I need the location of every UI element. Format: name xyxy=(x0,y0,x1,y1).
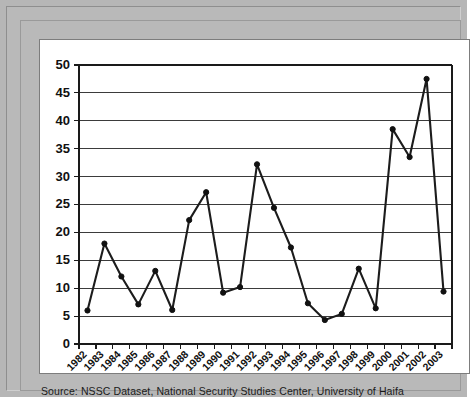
data-point xyxy=(237,284,242,289)
source-caption: Source: NSSC Dataset, National Security … xyxy=(39,378,470,397)
data-point xyxy=(339,311,344,316)
data-series-line xyxy=(87,79,443,320)
data-point xyxy=(288,245,293,250)
y-tick-label: 35 xyxy=(56,141,70,156)
data-point xyxy=(102,241,107,246)
data-point xyxy=(170,307,175,312)
data-point xyxy=(424,76,429,81)
y-tick-label: 0 xyxy=(63,336,70,351)
data-point xyxy=(373,306,378,311)
data-point xyxy=(305,301,310,306)
y-tick-label: 25 xyxy=(56,196,70,211)
data-point xyxy=(322,317,327,322)
y-tick-label: 50 xyxy=(56,57,70,72)
data-point xyxy=(136,302,141,307)
data-point xyxy=(390,127,395,132)
data-point xyxy=(271,205,276,210)
data-point xyxy=(441,289,446,294)
y-tick-label: 20 xyxy=(56,224,70,239)
data-point xyxy=(187,218,192,223)
y-tick-label: 10 xyxy=(56,280,70,295)
data-point xyxy=(407,154,412,159)
y-tick-label: 40 xyxy=(56,113,70,128)
source-caption-text: Source: NSSC Dataset, National Security … xyxy=(39,385,404,397)
y-tick-label: 30 xyxy=(56,169,70,184)
figure-outer-frame: 05101520253035404550 1982198319841985198… xyxy=(6,6,461,391)
data-markers-group xyxy=(85,76,446,322)
data-point xyxy=(356,266,361,271)
line-chart: 05101520253035404550 1982198319841985198… xyxy=(40,40,471,375)
y-tick-label: 45 xyxy=(56,85,70,100)
data-point xyxy=(204,190,209,195)
data-point xyxy=(254,162,259,167)
y-tick-label: 15 xyxy=(56,252,70,267)
data-series-group xyxy=(87,79,443,320)
x-axis-labels-group: 1982198319841985198619871988198919901991… xyxy=(64,348,445,373)
x-tick-label: 2003 xyxy=(420,348,445,373)
data-point xyxy=(153,268,158,273)
gridlines-group xyxy=(79,93,452,316)
plot-canvas: 05101520253035404550 1982198319841985198… xyxy=(39,39,470,374)
data-point xyxy=(221,290,226,295)
figure-inner-frame: 05101520253035404550 1982198319841985198… xyxy=(20,20,461,391)
y-axis-ticks-group: 05101520253035404550 xyxy=(56,57,79,351)
data-point xyxy=(85,308,90,313)
data-point xyxy=(119,274,124,279)
y-tick-label: 5 xyxy=(63,308,70,323)
